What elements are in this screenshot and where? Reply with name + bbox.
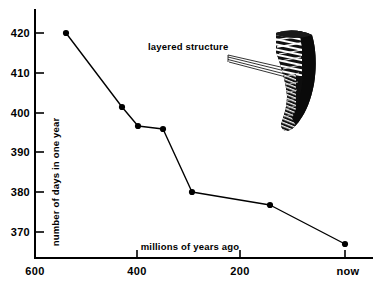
fossil-coral-illustration: [272, 30, 316, 132]
data-point: [135, 123, 141, 129]
x-axis-tick-labels: 600 400 200 now: [25, 265, 359, 277]
days-per-year-line-chart: 420 410 400 390 380 370 600 400 200 now …: [0, 0, 375, 287]
chart-figure: 420 410 400 390 380 370 600 400 200 now …: [0, 0, 375, 287]
y-axis-title: number of days in one year: [50, 118, 61, 247]
x-tick-label: now: [337, 265, 360, 277]
data-point: [189, 189, 195, 195]
y-tick-label: 420: [11, 27, 30, 39]
x-tick-label: 200: [230, 265, 249, 277]
annotation-leader-lines: [228, 55, 286, 77]
x-axis-title: millions of years ago: [141, 241, 240, 252]
data-point: [63, 30, 69, 36]
data-point: [160, 126, 166, 132]
y-tick-label: 410: [11, 67, 30, 79]
y-axis-ticks: [35, 33, 44, 232]
data-point: [342, 241, 348, 247]
data-point: [119, 104, 125, 110]
x-tick-label: 400: [127, 265, 146, 277]
data-point: [267, 202, 273, 208]
y-tick-label: 400: [11, 107, 30, 119]
y-tick-label: 370: [11, 226, 30, 238]
y-axis-tick-labels: 420 410 400 390 380 370: [11, 27, 30, 238]
annotation-label-layered-structure: layered structure: [148, 41, 229, 52]
y-tick-label: 380: [11, 186, 30, 198]
y-tick-label: 390: [11, 146, 30, 158]
x-tick-label: 600: [25, 265, 44, 277]
coral-growth-bands: [272, 30, 316, 132]
